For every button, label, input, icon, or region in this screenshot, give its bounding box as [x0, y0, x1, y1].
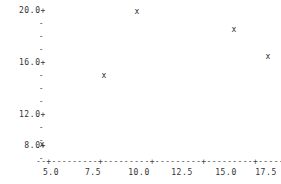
- data-point: x: [266, 53, 271, 61]
- data-point: x: [232, 26, 237, 34]
- plot-area: x x x x x: [0, 0, 281, 160]
- x-axis-tick-label: 15.0: [215, 169, 237, 177]
- x-axis-tick-label: 10.0: [128, 169, 150, 177]
- x-axis-tick-label: 7.5: [85, 169, 101, 177]
- x-axis-tick-label: 5.0: [43, 169, 59, 177]
- x-axis-tick-label: 17.5: [255, 169, 277, 177]
- x-axis-tick-label: 12.5: [171, 169, 193, 177]
- character-scatter-plot: 20.0+ 16.0+ 12.0+ 8.0+ - - - - - - - - -…: [0, 0, 281, 184]
- data-point: x: [40, 141, 45, 149]
- data-point: x: [102, 72, 107, 80]
- data-point: x: [135, 8, 140, 16]
- x-axis-line: --+---------+---------+---------+-------…: [36, 158, 281, 166]
